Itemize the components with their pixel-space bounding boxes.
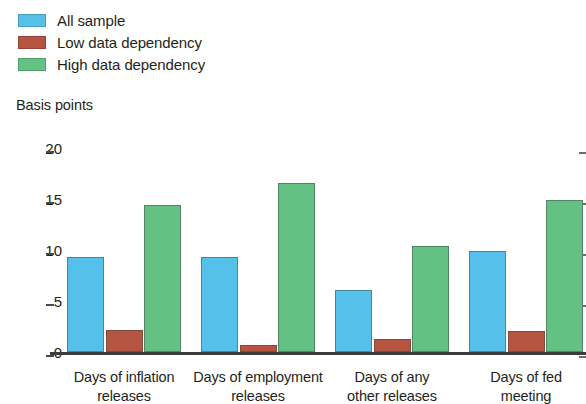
x-axis-category-label: Days of fedmeeting bbox=[436, 368, 586, 404]
plot-area: 05101520 bbox=[0, 130, 586, 362]
right-edge-tick-mark bbox=[579, 356, 586, 358]
bar bbox=[412, 246, 449, 352]
y-axis-tick-mark bbox=[46, 304, 54, 306]
legend-swatch-low-data-dependency bbox=[18, 36, 46, 49]
bar bbox=[335, 290, 372, 352]
y-axis-tick-mark bbox=[46, 253, 54, 255]
y-axis-tick-label: 20 bbox=[0, 141, 62, 156]
right-edge-tick-mark bbox=[579, 152, 586, 154]
chart-legend: All sample Low data dependency High data… bbox=[18, 9, 358, 75]
bar bbox=[67, 257, 104, 352]
bar bbox=[278, 183, 315, 352]
x-axis-category-labels: Days of inflationreleasesDays of employm… bbox=[0, 362, 586, 404]
legend-item-high-data-dependency: High data dependency bbox=[18, 53, 358, 75]
bar bbox=[546, 200, 583, 352]
legend-label-low-data-dependency: Low data dependency bbox=[57, 35, 202, 50]
legend-swatch-high-data-dependency bbox=[18, 58, 46, 71]
y-axis-tick-mark bbox=[46, 202, 54, 204]
legend-swatch-all-sample bbox=[18, 14, 46, 27]
bar bbox=[106, 330, 143, 352]
legend-item-all-sample: All sample bbox=[18, 9, 358, 31]
bar-chart-figure: All sample Low data dependency High data… bbox=[0, 0, 586, 404]
bar bbox=[240, 345, 277, 352]
y-axis-tick-mark bbox=[46, 151, 54, 153]
bar bbox=[508, 331, 545, 352]
legend-label-high-data-dependency: High data dependency bbox=[57, 57, 205, 72]
legend-item-low-data-dependency: Low data dependency bbox=[18, 31, 358, 53]
bar bbox=[469, 251, 506, 352]
x-axis-baseline bbox=[50, 352, 586, 355]
y-axis-tick-mark bbox=[46, 355, 54, 357]
bar bbox=[201, 257, 238, 352]
y-axis-tick-label: 15 bbox=[0, 192, 62, 207]
bar bbox=[144, 205, 181, 352]
y-axis-tick-label: 10 bbox=[0, 243, 62, 258]
y-axis-tick-label: 5 bbox=[0, 294, 62, 309]
bar bbox=[374, 339, 411, 352]
y-axis-title: Basis points bbox=[16, 97, 93, 113]
legend-label-all-sample: All sample bbox=[57, 13, 125, 28]
